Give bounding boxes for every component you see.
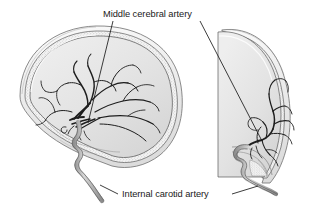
anatomical-figure: Middle cerebral artery Internal carotid … xyxy=(0,0,311,205)
label-internal-carotid-artery: Internal carotid artery xyxy=(122,189,209,199)
cerebral-arteries-illustration: Middle cerebral artery Internal carotid … xyxy=(0,0,311,205)
label-middle-cerebral-artery: Middle cerebral artery xyxy=(103,9,192,19)
